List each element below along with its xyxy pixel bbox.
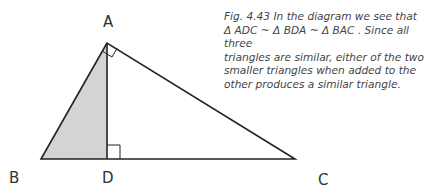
caption-line: triangles are similar, either of the two	[224, 51, 436, 65]
caption-line: Fig. 4.43 In the diagram we see that	[224, 10, 436, 24]
label-D: D	[102, 169, 114, 187]
label-A: A	[103, 13, 113, 31]
label-B: B	[9, 169, 19, 187]
caption-line: Δ ADC ~ Δ BDA ~ Δ BAC . Since all three	[224, 24, 436, 51]
caption-line: other produces a similar triangle.	[224, 78, 436, 92]
right-angle-marker-D	[107, 145, 120, 159]
figure-caption: Fig. 4.43 In the diagram we see that Δ A…	[224, 10, 436, 92]
label-C: C	[318, 171, 328, 189]
caption-line: smaller triangles when added to the	[224, 64, 436, 78]
